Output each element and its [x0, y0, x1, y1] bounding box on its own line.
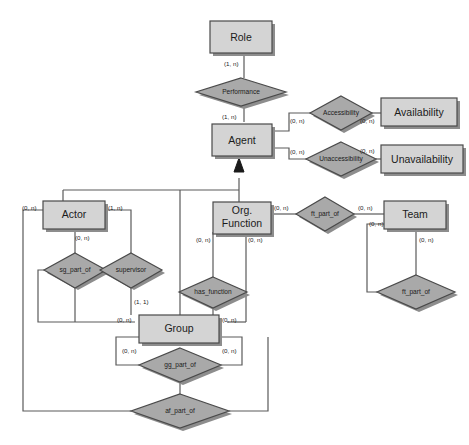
cardinality-accessibility-availability: (0, n): [360, 117, 374, 124]
entity-group[interactable]: Group: [139, 315, 222, 346]
relationship-af-part-of-label: af_part_of: [165, 407, 195, 415]
cardinality-team-left: (0, n): [369, 220, 383, 227]
entity-org-function[interactable]: Org. Function: [213, 202, 274, 237]
entity-availability-label: Availability: [394, 106, 444, 118]
entity-org-function-label-line2: Function: [222, 217, 262, 229]
relationship-has-function-label: has_function: [194, 288, 232, 296]
relationship-has-function[interactable]: has_function: [179, 277, 250, 311]
entity-unavailability-label: Unavailability: [391, 153, 454, 165]
cardinality-orgfn-ftpartof: (0, n): [274, 204, 288, 211]
entity-agent[interactable]: Agent: [212, 124, 275, 159]
cardinality-supervisor-group: (1, 1): [134, 298, 148, 305]
relationship-supervisor-label: supervisor: [116, 266, 147, 274]
cardinality-agent-accessibility: (0, n): [290, 117, 304, 124]
entity-role[interactable]: Role: [210, 21, 275, 56]
relationship-sg-part-of[interactable]: sg_part_of: [44, 253, 109, 290]
cardinality-orgfn-left: (0, n): [196, 236, 210, 243]
entity-actor[interactable]: Actor: [43, 201, 108, 232]
relationship-performance[interactable]: Performance: [196, 78, 289, 109]
conn-team-ftpartof-left: [367, 224, 384, 292]
entity-org-function-label-line1: Org.: [232, 204, 252, 216]
relationship-ft-part-of-team[interactable]: ft_part_of: [296, 197, 357, 234]
relationship-unaccessibility-label: Unaccessibility: [319, 155, 363, 163]
isa-triangle-icon: [234, 158, 244, 172]
cardinality-group-bottom-left: (0, n): [122, 347, 136, 354]
relationship-gg-part-of[interactable]: gg_part_of: [139, 348, 224, 385]
conn-actor-supervisor: [108, 210, 131, 253]
cardinality-performance-agent: (1, n): [222, 113, 236, 120]
relationship-performance-label: Performance: [222, 88, 260, 95]
entity-agent-label: Agent: [228, 134, 256, 146]
cardinality-group-bottom-right: (0, n): [222, 347, 236, 354]
entity-team-label: Team: [402, 208, 428, 220]
cardinality-actor-bottom: (0, n): [75, 234, 89, 241]
relationship-ft-part-of-recursive[interactable]: ft_part_of: [377, 275, 458, 312]
relationship-accessibility-label: Accessibility: [323, 109, 360, 117]
cardinality-actor-left: (0, n): [22, 204, 36, 211]
relationship-sg-part-of-label: sg_part_of: [59, 266, 90, 274]
er-diagram-canvas: Role Agent Availability Unavailability A…: [0, 0, 469, 445]
entity-team[interactable]: Team: [384, 201, 449, 232]
relationship-supervisor[interactable]: supervisor: [100, 253, 165, 290]
entity-group-label: Group: [164, 322, 193, 334]
entity-availability[interactable]: Availability: [381, 98, 460, 129]
cardinality-actor-right: (1, n): [108, 204, 122, 211]
cardinality-orgfn-right: (0, n): [248, 236, 262, 243]
cardinality-ftpartof-team: (0, n): [358, 204, 372, 211]
relationship-af-part-of[interactable]: af_part_of: [131, 394, 232, 431]
cardinality-group-left: (0, n): [117, 316, 131, 323]
relationship-accessibility[interactable]: Accessibility: [310, 96, 375, 133]
cardinality-unaccessibility-unavailability: (0, n): [360, 147, 374, 154]
cardinality-group-right: (0, n): [222, 316, 236, 323]
entity-actor-label: Actor: [62, 208, 87, 220]
cardinality-agent-unaccessibility: (0, n): [290, 148, 304, 155]
cardinality-team-bottom: (0, n): [419, 236, 433, 243]
er-diagram-svg: Role Agent Availability Unavailability A…: [0, 0, 469, 445]
relationship-ft-part-of-recursive-label: ft_part_of: [402, 288, 430, 296]
relationship-gg-part-of-label: gg_part_of: [164, 361, 196, 369]
entity-role-label: Role: [230, 31, 252, 43]
cardinality-role-performance: (1, n): [224, 60, 238, 67]
entity-unavailability[interactable]: Unavailability: [381, 145, 466, 176]
relationship-ft-part-of-team-label: ft_part_of: [311, 210, 339, 218]
